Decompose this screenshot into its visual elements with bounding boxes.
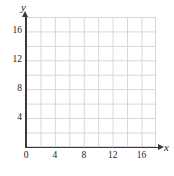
y-tick-label: 4 xyxy=(17,113,22,123)
y-tick-label-group: 161284 xyxy=(0,0,174,176)
y-tick-label: 8 xyxy=(17,84,22,94)
y-tick-label: 16 xyxy=(13,27,23,37)
graph-figure: y x 0481216 161284 xyxy=(0,0,174,176)
y-tick-label: 12 xyxy=(13,56,23,66)
